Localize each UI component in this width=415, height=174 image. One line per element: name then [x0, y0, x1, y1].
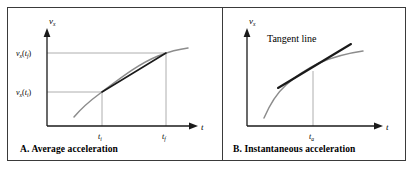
- x-axis-label: t: [201, 122, 204, 132]
- panel-a-caption: A. Average acceleration: [20, 144, 118, 154]
- x-tick-label-ta: ta: [309, 132, 314, 142]
- panel-b-plot: vx t Tangent line ta: [223, 8, 408, 148]
- panel-instantaneous-acceleration: vx t Tangent line ta B. Instantaneous ac…: [222, 8, 407, 160]
- velocity-curve: [264, 51, 363, 118]
- y-tick-label-vi: vx(ti): [16, 88, 32, 98]
- x-axis-label: t: [386, 122, 389, 132]
- y-axis-arrowhead: [244, 28, 251, 37]
- y-axis-arrowhead: [44, 28, 51, 37]
- panel-b-caption: B. Instantaneous acceleration: [233, 144, 355, 154]
- panel-average-acceleration: vx t vx(tf) vx(ti) ti tf A. Average acce…: [8, 8, 222, 160]
- x-tick-label-ti: ti: [98, 132, 102, 142]
- y-tick-label-vf: vx(tf): [16, 49, 32, 59]
- x-axis-arrowhead: [374, 123, 383, 130]
- tangent-line-annotation: Tangent line: [267, 33, 317, 44]
- y-axis-label: vx: [49, 16, 56, 27]
- panel-a-plot: vx t vx(tf) vx(ti) ti tf: [8, 8, 222, 148]
- tangent-line: [278, 44, 351, 88]
- velocity-curve: [74, 48, 188, 117]
- secant-line: [102, 53, 166, 92]
- x-tick-label-tf: tf: [162, 132, 167, 142]
- figure-container: vx t vx(tf) vx(ti) ti tf A. Average acce…: [7, 7, 406, 161]
- x-axis-arrowhead: [189, 123, 198, 130]
- y-axis-label: vx: [249, 16, 256, 27]
